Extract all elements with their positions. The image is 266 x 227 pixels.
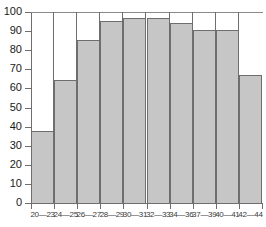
x-axis-tick-label: 20—23 [30,210,54,219]
bar-slot [216,12,239,203]
bar [31,131,54,203]
y-axis-tick-label: 90 [10,25,22,36]
y-axis-tick-label: 60 [10,82,22,93]
x-axis-tick [216,204,217,209]
bar-slot [147,12,170,203]
x-axis-tick-label: 40—41 [215,210,239,219]
plot-area [31,12,262,203]
bar [170,23,193,203]
y-axis-tick-label: 30 [10,140,22,151]
bar-slot [100,12,123,203]
x-axis-tick-label: 30—31 [123,210,147,219]
y-axis-tick-label: 70 [10,63,22,74]
bar-slot [77,12,100,203]
bar [216,30,239,203]
x-axis-tick-label: 26—27 [77,210,101,219]
bar-chart: 0102030405060708090100 20—2324—2526—2728… [0,0,266,227]
bar-slot [123,12,146,203]
bar-slot [193,12,216,203]
y-axis-tick-label: 40 [10,121,22,132]
bar [123,18,146,203]
x-axis-tick [54,204,55,209]
x-axis-tick [193,204,194,209]
bar-slot [239,12,262,203]
x-axis-tick [31,204,32,209]
x-axis-tick [77,204,78,209]
bar [54,80,77,203]
y-axis-tick-label: 80 [10,44,22,55]
bar [147,18,170,203]
x-axis-tick [123,204,124,209]
bar [239,75,262,203]
y-axis-tick-label: 100 [4,6,22,17]
y-axis-tick-label: 50 [10,102,22,113]
y-axis-tick-label: 20 [10,159,22,170]
x-axis-tick [239,204,240,209]
x-axis-tick-label: 24—25 [53,210,77,219]
bar-slot [31,12,54,203]
y-axis-tick-label: 10 [10,178,22,189]
bar [193,30,216,203]
x-axis-tick-label: 28—29 [100,210,124,219]
bar [100,21,123,203]
x-axis-tick-label: 37—39 [192,210,216,219]
x-axis-tick [147,204,148,209]
x-axis-tick-label: 32—33 [146,210,170,219]
bar [77,40,100,203]
y-axis-tick-label: 0 [16,197,22,208]
x-axis-tick-label: 34—36 [169,210,193,219]
x-axis-tick [100,204,101,209]
bar-slot [54,12,77,203]
bar-slot [170,12,193,203]
x-axis-tick [170,204,171,209]
x-axis-tick-label: 42—44 [238,210,262,219]
x-axis-tick [262,204,263,209]
